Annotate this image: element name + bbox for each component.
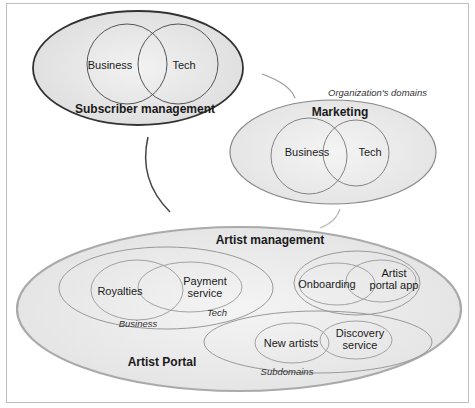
payment-line1: Payment [183, 275, 226, 287]
royalties-label: Royalties [97, 285, 143, 297]
discovery-line2: service [343, 339, 378, 351]
marketing-tech-label: Tech [358, 146, 381, 158]
artist-domain: Artist management Royalties Payment serv… [17, 227, 461, 391]
subscriber-business-label: Business [88, 59, 133, 71]
subscriber-domain: Business Tech Subscriber management [33, 11, 243, 125]
marketing-domain: Marketing Business Tech [230, 100, 436, 204]
subdomains-caption: Subdomains [261, 366, 314, 377]
tech-tag: Tech [207, 307, 227, 318]
business-tag: Business [119, 318, 158, 329]
connector-subscriber-artist [146, 137, 170, 212]
subscriber-title: Subscriber management [75, 102, 215, 116]
marketing-business-label: Business [285, 146, 330, 158]
connector-marketing-artist [320, 209, 340, 228]
discovery-line1: Discovery [336, 327, 385, 339]
connector-subscriber-marketing [262, 74, 295, 98]
subscriber-tech-label: Tech [172, 59, 195, 71]
artist-portal-app-line1: Artist [381, 267, 406, 279]
domain-diagram: Business Tech Subscriber management Orga… [0, 0, 475, 408]
onboarding-label: Onboarding [298, 278, 356, 290]
payment-line2: service [188, 287, 223, 299]
artist-title: Artist management [216, 233, 325, 247]
organization-domains-caption: Organization's domains [328, 87, 427, 98]
new-artists-label: New artists [264, 337, 319, 349]
artist-portal-label: Artist Portal [128, 355, 197, 369]
marketing-title: Marketing [312, 105, 369, 119]
artist-portal-app-line2: portal app [370, 279, 419, 291]
